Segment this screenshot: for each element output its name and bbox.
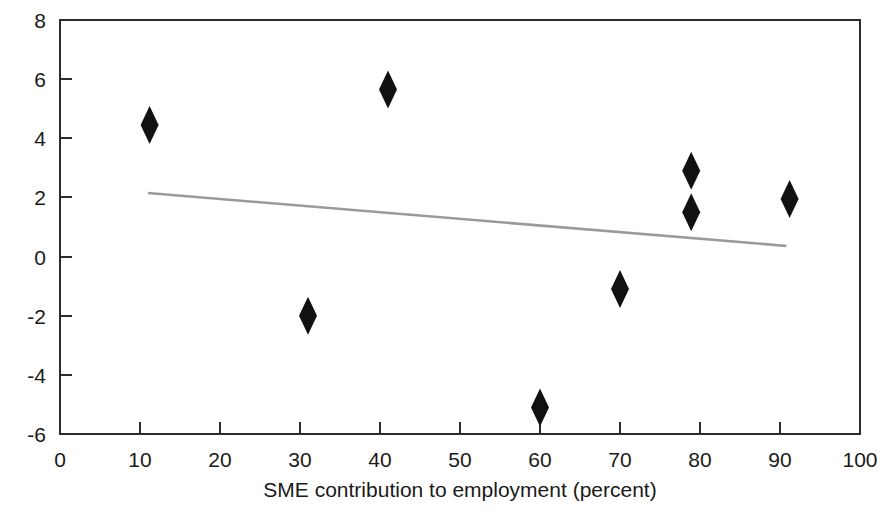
y-tick-label-8: 8 (34, 9, 46, 32)
x-tick-label-80: 80 (688, 448, 711, 471)
y-tick-label-2: 2 (34, 186, 46, 209)
y-axis-tick-labels: 8 6 4 2 0 -2 -4 -6 (27, 9, 46, 446)
x-axis-title: SME contribution to employment (percent) (263, 478, 656, 501)
y-tick-label-neg4: -4 (27, 364, 46, 387)
x-tick-label-20: 20 (208, 448, 231, 471)
x-tick-label-40: 40 (368, 448, 391, 471)
y-tick-label-neg6: -6 (27, 423, 46, 446)
scatter-chart-figure: 8 6 4 2 0 -2 -4 -6 0 10 20 (0, 0, 882, 518)
x-tick-label-10: 10 (128, 448, 151, 471)
x-axis-tick-labels: 0 10 20 30 40 50 60 70 80 90 100 (54, 448, 877, 471)
x-tick-label-60: 60 (528, 448, 551, 471)
scatter-point (611, 270, 629, 308)
plot-frame (60, 20, 860, 434)
scatter-point (141, 106, 159, 144)
scatter-marker-layer (141, 70, 799, 426)
chart-canvas: 8 6 4 2 0 -2 -4 -6 0 10 20 (0, 0, 882, 518)
x-tick-label-50: 50 (448, 448, 471, 471)
scatter-point (299, 297, 317, 335)
scatter-point (682, 193, 700, 231)
scatter-point (531, 388, 549, 426)
y-tick-label-0: 0 (34, 246, 46, 269)
y-tick-label-neg2: -2 (27, 305, 46, 328)
y-tick-label-6: 6 (34, 68, 46, 91)
x-tick-label-0: 0 (54, 448, 66, 471)
x-tick-label-70: 70 (608, 448, 631, 471)
scatter-point (682, 152, 700, 190)
scatter-point (379, 70, 397, 108)
x-tick-label-90: 90 (768, 448, 791, 471)
y-axis-ticks (60, 20, 72, 434)
scatter-point (781, 180, 799, 218)
x-axis-ticks (60, 422, 860, 434)
x-tick-label-30: 30 (288, 448, 311, 471)
x-tick-label-100: 100 (842, 448, 877, 471)
y-tick-label-4: 4 (34, 127, 46, 150)
